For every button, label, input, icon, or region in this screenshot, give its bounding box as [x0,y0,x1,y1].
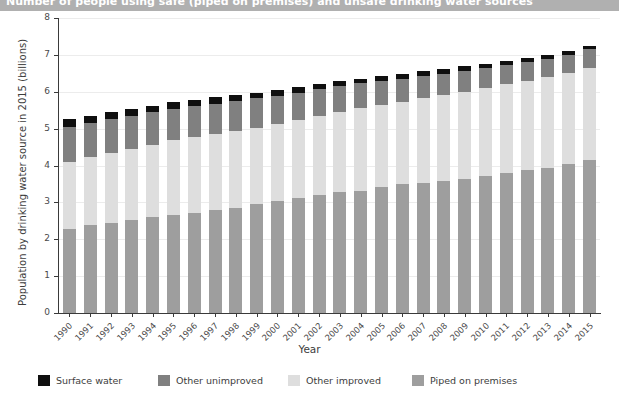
bar-segment[interactable] [125,109,138,116]
bar-segment[interactable] [437,95,450,181]
bar-column[interactable] [562,18,575,313]
bar-segment[interactable] [562,51,575,55]
bar-column[interactable] [500,18,513,313]
bar-segment[interactable] [417,183,430,313]
bar-segment[interactable] [250,98,263,127]
bar-segment[interactable] [63,119,76,126]
bar-segment[interactable] [313,116,326,195]
bar-segment[interactable] [105,119,118,153]
bar-segment[interactable] [146,145,159,217]
bar-column[interactable] [229,18,242,313]
bar-segment[interactable] [146,112,159,144]
bar-segment[interactable] [125,220,138,313]
bar-segment[interactable] [354,108,367,190]
bar-segment[interactable] [250,128,263,205]
bar-segment[interactable] [562,55,575,73]
bar-segment[interactable] [417,76,430,98]
bar-segment[interactable] [84,123,97,157]
bar-segment[interactable] [396,74,409,79]
bar-segment[interactable] [292,87,305,93]
bar-column[interactable] [354,18,367,313]
bar-column[interactable] [292,18,305,313]
bar-column[interactable] [333,18,346,313]
bar-segment[interactable] [583,46,596,50]
bar-segment[interactable] [146,217,159,313]
bar-segment[interactable] [188,106,201,137]
bar-column[interactable] [458,18,471,313]
bar-segment[interactable] [313,84,326,89]
bar-segment[interactable] [541,77,554,168]
bar-segment[interactable] [479,68,492,88]
bar-column[interactable] [583,18,596,313]
bar-segment[interactable] [396,184,409,313]
bar-segment[interactable] [500,65,513,85]
bar-segment[interactable] [541,55,554,59]
bar-segment[interactable] [292,198,305,313]
bar-segment[interactable] [521,58,534,62]
bar-segment[interactable] [229,95,242,101]
bar-column[interactable] [417,18,430,313]
bar-segment[interactable] [84,225,97,313]
bar-segment[interactable] [313,195,326,313]
bar-segment[interactable] [188,137,201,213]
bar-segment[interactable] [250,204,263,313]
bar-segment[interactable] [562,164,575,313]
bar-segment[interactable] [437,74,450,96]
bar-segment[interactable] [188,100,201,106]
bar-segment[interactable] [458,179,471,313]
bar-column[interactable] [271,18,284,313]
bar-segment[interactable] [271,96,284,124]
bar-column[interactable] [63,18,76,313]
bar-segment[interactable] [209,210,222,313]
bar-segment[interactable] [167,109,180,141]
bar-segment[interactable] [250,93,263,99]
bar-segment[interactable] [333,192,346,313]
bar-segment[interactable] [188,213,201,313]
bar-segment[interactable] [521,81,534,170]
legend-item[interactable]: Other improved [288,371,381,389]
bar-segment[interactable] [105,223,118,313]
bar-column[interactable] [521,18,534,313]
bar-segment[interactable] [271,90,284,96]
bar-segment[interactable] [479,176,492,313]
bar-column[interactable] [541,18,554,313]
bar-segment[interactable] [375,105,388,187]
bar-segment[interactable] [396,79,409,102]
bar-segment[interactable] [417,98,430,183]
bar-segment[interactable] [271,124,284,201]
bar-segment[interactable] [375,187,388,313]
bar-segment[interactable] [375,81,388,105]
bar-segment[interactable] [562,73,575,164]
bar-segment[interactable] [146,106,159,113]
bar-segment[interactable] [500,84,513,173]
bar-segment[interactable] [333,86,346,112]
bar-segment[interactable] [458,71,471,92]
bar-segment[interactable] [500,173,513,313]
bar-segment[interactable] [63,127,76,162]
bar-segment[interactable] [63,229,76,313]
bar-segment[interactable] [521,62,534,81]
bar-segment[interactable] [209,97,222,103]
bar-segment[interactable] [229,101,242,131]
bar-segment[interactable] [583,49,596,67]
bar-column[interactable] [146,18,159,313]
bar-segment[interactable] [583,68,596,160]
bar-segment[interactable] [84,116,97,123]
bar-segment[interactable] [229,131,242,208]
bar-segment[interactable] [167,102,180,109]
bar-segment[interactable] [458,66,471,70]
bar-column[interactable] [188,18,201,313]
bar-segment[interactable] [500,61,513,65]
bar-column[interactable] [396,18,409,313]
bar-segment[interactable] [479,88,492,176]
bar-segment[interactable] [125,116,138,149]
bar-column[interactable] [167,18,180,313]
bar-segment[interactable] [63,162,76,229]
bar-segment[interactable] [209,134,222,210]
bar-column[interactable] [313,18,326,313]
bar-segment[interactable] [167,140,180,214]
bar-segment[interactable] [354,191,367,313]
bar-segment[interactable] [105,112,118,119]
legend-item[interactable]: Other unimproved [158,371,263,389]
bar-segment[interactable] [437,181,450,313]
